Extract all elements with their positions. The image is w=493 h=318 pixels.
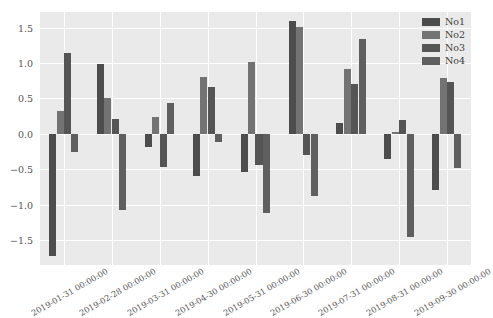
legend-swatch-icon: [422, 18, 440, 26]
bar-group: [88, 12, 136, 265]
bar-no1: [241, 134, 248, 172]
bar-no2: [104, 98, 111, 133]
x-tick-label: 2019-01-31 00:00:00: [30, 266, 110, 318]
y-tick-label: 0.5: [0, 93, 33, 104]
bar-group: [184, 12, 232, 265]
legend-item-no4[interactable]: No4: [422, 56, 465, 65]
bar-no2: [344, 69, 351, 134]
bar-no4: [407, 134, 414, 237]
bar-no3: [303, 134, 310, 155]
bar-no3: [255, 134, 262, 165]
bar-no4: [119, 134, 126, 211]
chart-legend: No1No2No3No4: [418, 14, 469, 68]
legend-swatch-icon: [422, 57, 440, 65]
bar-no2: [248, 62, 255, 134]
bar-group: [327, 12, 375, 265]
bar-no2: [152, 117, 159, 134]
legend-swatch-icon: [422, 44, 440, 52]
bar-no4: [311, 134, 318, 196]
bar-no4: [71, 134, 78, 152]
x-axis-tick-labels: 2019-01-31 00:00:002019-02-28 00:00:0020…: [40, 266, 471, 315]
y-tick-label: −1.5: [0, 235, 33, 246]
bar-no4: [263, 134, 270, 213]
bar-no4: [454, 134, 461, 168]
bar-no1: [289, 21, 296, 134]
bar-no4: [359, 39, 366, 134]
bar-no3: [447, 82, 454, 134]
bar-group: [375, 12, 423, 265]
bar-no2: [296, 27, 303, 134]
y-tick-label: 0.0: [0, 128, 33, 139]
y-tick-label: −1.0: [0, 199, 33, 210]
bar-no3: [112, 119, 119, 134]
bar-no2: [200, 77, 207, 134]
bar-no2: [440, 78, 447, 134]
bar-no4: [167, 103, 174, 133]
bar-no3: [399, 120, 406, 134]
bar-no1: [336, 123, 343, 134]
bar-no4: [215, 134, 222, 142]
legend-label: No2: [445, 30, 465, 39]
bar-group: [136, 12, 184, 265]
y-axis-tick-labels: 1.51.00.50.0−0.5−1.0−1.5: [0, 12, 36, 265]
y-tick-label: 1.0: [0, 58, 33, 69]
plot-area: [40, 12, 471, 265]
bar-no3: [208, 87, 215, 134]
bar-no1: [145, 134, 152, 147]
bar-no3: [160, 134, 167, 167]
legend-swatch-icon: [422, 31, 440, 39]
legend-label: No3: [445, 43, 465, 52]
bar-group: [232, 12, 280, 265]
bar-no2: [57, 111, 64, 134]
legend-item-no2[interactable]: No2: [422, 30, 465, 39]
bar-no1: [384, 134, 391, 159]
bar-group: [40, 12, 88, 265]
bar-no1: [432, 134, 439, 190]
y-tick-label: −0.5: [0, 164, 33, 175]
bar-group: [279, 12, 327, 265]
bar-no3: [351, 84, 358, 134]
bar-no3: [64, 53, 71, 134]
legend-label: No1: [445, 17, 465, 26]
bar-no1: [193, 134, 200, 177]
legend-item-no3[interactable]: No3: [422, 43, 465, 52]
bar-no1: [49, 134, 56, 257]
legend-label: No4: [445, 56, 465, 65]
legend-item-no1[interactable]: No1: [422, 17, 465, 26]
bar-no1: [97, 64, 104, 133]
bar-no2: [392, 132, 399, 134]
y-tick-label: 1.5: [0, 22, 33, 33]
